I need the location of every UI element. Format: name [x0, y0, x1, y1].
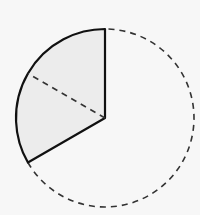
diagram-canvas	[0, 0, 200, 215]
circle-sector-figure	[0, 0, 200, 215]
shaded-sector	[16, 29, 105, 163]
